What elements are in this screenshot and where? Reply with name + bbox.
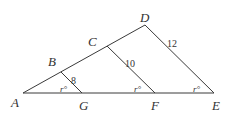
point-label-g: G xyxy=(79,98,89,113)
point-label-c: C xyxy=(88,34,97,49)
point-label-b: B xyxy=(48,54,56,69)
length-label-bg: 8 xyxy=(71,75,76,86)
point-label-f: F xyxy=(150,98,160,113)
angle-label-e: r° xyxy=(193,84,201,94)
segment-cf xyxy=(107,46,155,93)
angle-label-g: r° xyxy=(60,84,68,94)
geometry-diagram: A B C D E F G 8 10 12 r° r° r° xyxy=(0,0,235,115)
length-label-cf: 10 xyxy=(125,58,135,69)
point-label-a: A xyxy=(10,95,19,110)
length-label-de: 12 xyxy=(167,38,177,49)
angle-label-f: r° xyxy=(134,84,142,94)
point-label-e: E xyxy=(211,98,220,113)
segment-de xyxy=(145,25,214,93)
point-label-d: D xyxy=(139,10,150,25)
